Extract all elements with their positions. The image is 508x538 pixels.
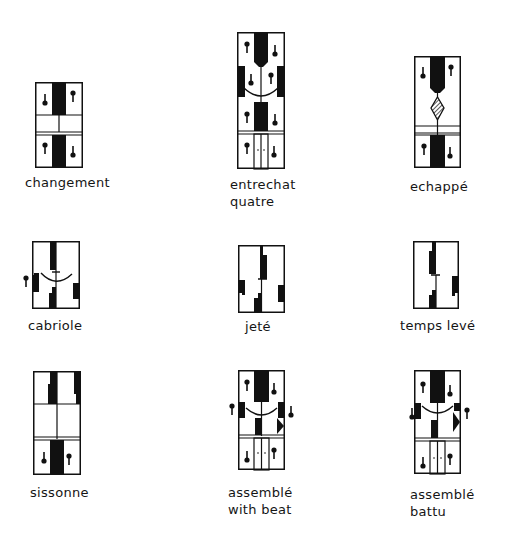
label-sissonne: sissonne (30, 484, 89, 501)
notation-entrechat-quatre (237, 32, 285, 169)
pin-icon (229, 403, 234, 415)
figure-assemble-battu (414, 370, 461, 474)
figure-echappe (414, 56, 461, 168)
notation-cabriole (32, 241, 80, 309)
notation-jete (238, 245, 285, 313)
label-temps-leve: temps levé (400, 317, 475, 334)
label-entrechat-quatre: entrechat quatre (230, 176, 296, 210)
pin-icon (464, 407, 469, 419)
notation-echappe (414, 56, 461, 168)
pin-icon (288, 406, 293, 418)
label-jete: jeté (245, 318, 271, 335)
notation-sissonne (33, 371, 81, 475)
notation-assemble-battu (414, 370, 461, 474)
figure-temps-leve (413, 241, 459, 309)
figure-jete (238, 245, 285, 313)
pin-icon (23, 275, 28, 287)
figure-entrechat-quatre (237, 32, 285, 169)
label-echappe: echappé (410, 178, 468, 195)
notation-changement (35, 82, 83, 168)
figure-sissonne (33, 371, 81, 475)
notation-temps-leve (413, 241, 459, 309)
figure-assemble-with-beat (238, 370, 285, 470)
label-cabriole: cabriole (28, 317, 82, 334)
pin-icon (409, 408, 414, 420)
label-assemble-battu: assemblé battu (410, 486, 474, 520)
label-assemble-with-beat: assemblé with beat (228, 484, 292, 518)
notation-assemble-with-beat (238, 370, 285, 470)
label-changement: changement (25, 174, 110, 191)
figure-cabriole (32, 241, 80, 309)
figure-changement (35, 82, 83, 168)
